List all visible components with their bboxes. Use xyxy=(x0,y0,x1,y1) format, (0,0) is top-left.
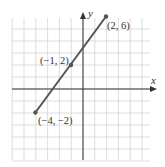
point-neg4-neg2 xyxy=(33,110,37,114)
coordinate-plane: x y (2, 6) (−1, 2) (−4, −2) xyxy=(0,0,165,167)
x-axis-label: x xyxy=(150,74,156,86)
point-neg1-2 xyxy=(69,63,73,67)
y-axis-label: y xyxy=(87,7,93,19)
x-axis-arrow-icon xyxy=(150,86,157,92)
point-2-6 xyxy=(104,14,108,18)
point-label-neg1-2: (−1, 2) xyxy=(40,55,69,67)
point-label-neg4-neg2: (−4, −2) xyxy=(38,115,73,127)
y-axis-arrow-icon xyxy=(80,12,86,19)
point-label-2-6: (2, 6) xyxy=(107,20,130,32)
